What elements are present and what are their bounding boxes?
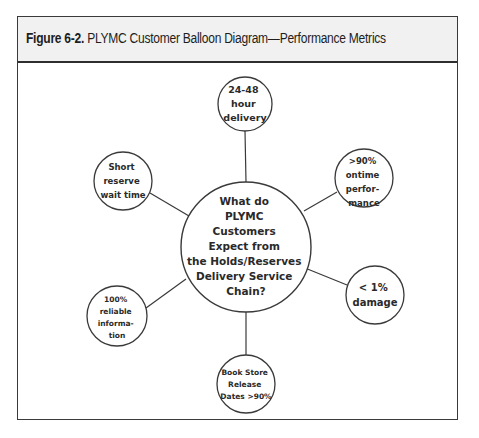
balloon-reliable: 100% reliable informa- tion xyxy=(87,286,147,346)
center-balloon: What do PLYMC Customers Expect from the … xyxy=(181,182,311,312)
balloon-bookstore: Book Store Release Dates >90% xyxy=(217,355,275,413)
connector-delivery xyxy=(245,131,246,182)
balloon-delivery: 24-48 hour delivery xyxy=(218,77,272,131)
balloon-reserve: Short reserve wait time xyxy=(94,152,152,210)
connector-damage xyxy=(305,268,347,285)
balloon-diagram: What do PLYMC Customers Expect from the … xyxy=(0,0,479,438)
connector-reserve xyxy=(150,193,189,216)
balloon-ontime: >90% ontime perfor- mance xyxy=(335,149,393,208)
balloon-damage: < 1% damage xyxy=(346,266,404,324)
connector-reliable xyxy=(146,279,186,308)
connector-ontime xyxy=(304,192,337,211)
